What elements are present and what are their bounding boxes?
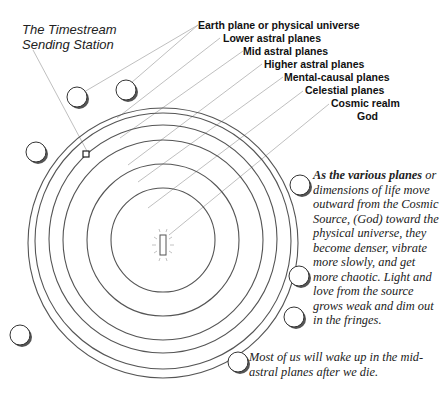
leader-line-higher-astral <box>128 64 262 165</box>
description-text: As the various planes or dimensions of l… <box>313 168 441 328</box>
orb-icon <box>116 80 138 102</box>
leader-line-earth-b <box>131 25 198 83</box>
orb-icon <box>67 87 89 109</box>
label-cosmic-realm: Cosmic realm <box>331 97 400 109</box>
label-higher-astral: Higher astral planes <box>264 58 364 70</box>
label-mid-astral: Mid astral planes <box>243 45 328 57</box>
orb-icon <box>289 266 311 288</box>
label-god: God <box>357 110 378 122</box>
orb-icon <box>26 142 48 164</box>
description-body: or dimensions of life move outward from … <box>313 168 439 327</box>
label-celestial: Celestial planes <box>305 84 384 96</box>
label-mental-causal: Mental-causal planes <box>284 71 390 83</box>
orb-icon <box>284 307 306 329</box>
leader-line-mental-causal <box>138 77 283 182</box>
footnote: Most of us will wake up in the mid-astra… <box>249 350 441 379</box>
orb-icon <box>290 175 312 197</box>
label-lower-astral: Lower astral planes <box>223 32 321 44</box>
description-lead: As the various planes <box>313 168 422 182</box>
sending-station-label: The Timestream Sending Station <box>22 22 117 52</box>
station-label-line2: Sending Station <box>22 37 117 52</box>
sending-station-icon <box>83 151 89 157</box>
label-earth-plane: Earth plane or physical universe <box>198 19 360 31</box>
leader-line-cosmic <box>169 104 329 235</box>
orb-icon <box>228 352 250 374</box>
orb-icon <box>10 325 32 347</box>
station-label-line1: The Timestream <box>22 22 117 37</box>
